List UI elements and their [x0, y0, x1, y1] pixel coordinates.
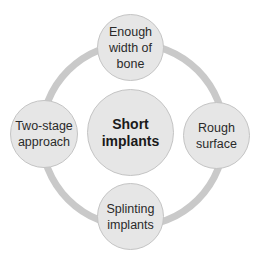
node-label: Two-stage approach	[15, 118, 73, 150]
node-label: Splinting implants	[107, 201, 155, 233]
node-label: Enough width of bone	[109, 24, 152, 72]
node-rough-surface: Rough surface	[183, 102, 250, 169]
center-node-short-implants: Short implants	[87, 89, 174, 176]
node-splinting-implants: Splinting implants	[97, 183, 164, 250]
node-enough-width-of-bone: Enough width of bone	[97, 14, 164, 81]
center-node-label: Short implants	[102, 116, 160, 150]
node-two-stage-approach: Two-stage approach	[10, 100, 78, 168]
node-label: Rough surface	[196, 120, 237, 152]
